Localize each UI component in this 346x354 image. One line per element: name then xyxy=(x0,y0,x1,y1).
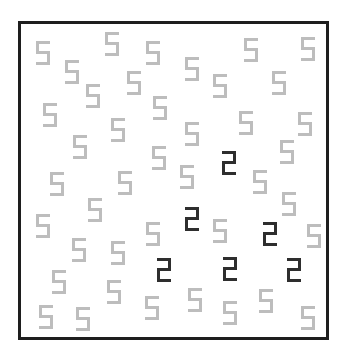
glyph-stroke xyxy=(188,288,191,301)
glyph-stroke xyxy=(301,306,304,319)
glyph-stroke xyxy=(307,224,310,237)
glyph-stroke xyxy=(156,306,159,320)
distractor-digit-5 xyxy=(180,165,194,189)
distractor-digit-5 xyxy=(188,288,202,312)
distractor-digit-5 xyxy=(146,222,160,246)
glyph-stroke xyxy=(36,214,39,227)
distractor-digit-5 xyxy=(111,241,125,265)
distractor-digit-5 xyxy=(213,219,227,243)
glyph-stroke xyxy=(153,96,156,109)
glyph-stroke xyxy=(107,280,110,293)
distractor-digit-5 xyxy=(36,214,50,238)
glyph-stroke xyxy=(138,81,141,95)
glyph-stroke xyxy=(234,311,237,325)
glyph-stroke xyxy=(224,229,227,243)
distractor-digit-5 xyxy=(185,122,199,146)
glyph-stroke xyxy=(255,48,258,62)
glyph-stroke xyxy=(223,267,226,281)
glyph-stroke xyxy=(223,301,226,314)
glyph-stroke xyxy=(116,42,119,56)
distractor-digit-5 xyxy=(152,146,166,170)
glyph-stroke xyxy=(157,232,160,246)
glyph-stroke xyxy=(213,74,216,87)
distractor-digit-5 xyxy=(107,280,121,304)
distractor-digit-5 xyxy=(52,270,66,294)
distractor-digit-5 xyxy=(73,135,87,159)
glyph-stroke xyxy=(301,37,304,50)
glyph-stroke xyxy=(105,32,108,45)
glyph-stroke xyxy=(145,296,148,309)
distractor-digit-5 xyxy=(272,71,286,95)
glyph-stroke xyxy=(185,122,188,135)
glyph-stroke xyxy=(164,106,167,120)
glyph-stroke xyxy=(168,258,171,271)
distractor-digit-5 xyxy=(298,112,312,136)
glyph-stroke xyxy=(47,224,50,238)
glyph-stroke xyxy=(250,121,253,135)
glyph-stroke xyxy=(39,305,42,318)
glyph-stroke xyxy=(88,198,91,211)
glyph-stroke xyxy=(73,135,76,148)
glyph-stroke xyxy=(127,71,130,84)
distractor-digit-5 xyxy=(86,84,100,108)
glyph-stroke xyxy=(36,41,39,54)
glyph-stroke xyxy=(283,81,286,95)
glyph-stroke xyxy=(72,238,75,251)
glyph-stroke xyxy=(129,181,132,195)
distractor-digit-5 xyxy=(72,238,86,262)
distractor-digit-5 xyxy=(301,306,315,330)
glyph-stroke xyxy=(309,122,312,136)
glyph-stroke xyxy=(65,60,68,73)
glyph-stroke xyxy=(63,280,66,294)
distractor-digit-5 xyxy=(280,140,294,164)
glyph-stroke xyxy=(118,171,121,184)
glyph-stroke xyxy=(224,84,227,98)
glyph-stroke xyxy=(180,165,183,178)
distractor-digit-5 xyxy=(253,170,267,194)
glyph-stroke xyxy=(47,51,50,65)
glyph-stroke xyxy=(76,307,79,320)
distractor-digit-5 xyxy=(127,71,141,95)
distractor-digit-5 xyxy=(50,172,64,196)
glyph-stroke xyxy=(97,94,100,108)
distractor-digit-5 xyxy=(259,289,273,313)
glyph-stroke xyxy=(83,248,86,262)
glyph-stroke xyxy=(87,317,90,331)
glyph-stroke xyxy=(263,232,266,246)
glyph-stroke xyxy=(191,175,194,189)
glyph-stroke xyxy=(84,145,87,159)
distractor-digit-5 xyxy=(185,57,199,81)
glyph-stroke xyxy=(233,151,236,164)
glyph-stroke xyxy=(312,47,315,61)
glyph-stroke xyxy=(264,180,267,194)
glyph-stroke xyxy=(253,170,256,183)
glyph-stroke xyxy=(196,207,199,220)
target-digit-2 xyxy=(223,257,237,281)
glyph-stroke xyxy=(152,146,155,159)
distractor-digit-5 xyxy=(301,37,315,61)
glyph-stroke xyxy=(122,251,125,265)
distractor-digit-5 xyxy=(244,38,258,62)
glyph-stroke xyxy=(318,234,321,248)
target-digit-2 xyxy=(185,207,199,231)
glyph-stroke xyxy=(312,316,315,330)
distractor-digit-5 xyxy=(76,307,90,331)
distractor-digit-5 xyxy=(118,171,132,195)
glyph-stroke xyxy=(122,128,125,142)
glyph-stroke xyxy=(287,268,290,282)
distractor-digit-5 xyxy=(282,192,296,216)
glyph-stroke xyxy=(157,268,160,282)
distractor-digit-5 xyxy=(88,198,102,222)
glyph-stroke xyxy=(282,192,285,205)
target-digit-2 xyxy=(287,258,301,282)
glyph-stroke xyxy=(50,315,53,329)
target-digit-2 xyxy=(157,258,171,282)
distractor-digit-5 xyxy=(153,96,167,120)
glyph-stroke xyxy=(185,57,188,70)
glyph-stroke xyxy=(272,71,275,84)
glyph-stroke xyxy=(86,84,89,97)
distractor-digit-5 xyxy=(239,111,253,135)
glyph-stroke xyxy=(196,67,199,81)
distractor-digit-5 xyxy=(111,118,125,142)
distractor-digit-5 xyxy=(146,41,160,65)
